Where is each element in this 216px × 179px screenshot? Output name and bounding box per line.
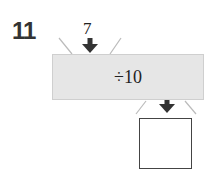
down-arrow-icon bbox=[82, 38, 98, 53]
right-funnel-line bbox=[110, 38, 121, 54]
bottom-left-funnel-line bbox=[136, 101, 146, 114]
operation-box: ÷10 bbox=[52, 54, 204, 100]
input-value: 7 bbox=[83, 19, 92, 39]
question-number: 11 bbox=[12, 17, 35, 45]
operation-label: ÷10 bbox=[53, 67, 203, 88]
left-funnel-line bbox=[59, 38, 72, 54]
bottom-right-funnel-line bbox=[185, 101, 196, 114]
down-arrow-icon bbox=[159, 99, 175, 113]
answer-box[interactable] bbox=[139, 118, 192, 169]
